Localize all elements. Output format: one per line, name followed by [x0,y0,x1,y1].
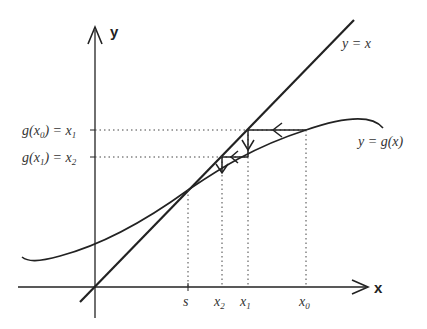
fixed-point-diagram: x y y = x y = g(x) g(x0) = x1 g(x1) = x2… [0,0,427,329]
y-tick-label-x1: g(x0) = x1 [22,123,76,140]
x-tick-label-s: s [183,294,189,309]
cobweb-path [222,130,306,172]
x-axis-label: x [374,279,383,296]
g-curve [22,119,383,261]
tick-marks [90,130,188,291]
identity-line [80,20,354,302]
g-curve-label: y = g(x) [356,134,404,150]
y-tick-label-x2: g(x1) = x2 [22,150,77,167]
dotted-guides [95,130,306,287]
x-tick-label-x1: x1 [239,294,251,311]
x-tick-label-x2: x2 [213,294,225,311]
identity-line-label: y = x [340,36,372,51]
x-tick-label-x0: x0 [298,294,310,311]
y-axis-label: y [110,23,119,40]
